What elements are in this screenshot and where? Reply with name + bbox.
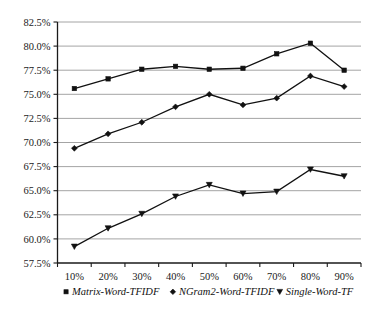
x-axis-label: 30% [132,271,152,282]
y-axis-label: 77.5% [23,65,50,76]
marker-square [72,86,76,90]
chart-legend: Matrix-Word-TFIDFNGram2-Word-TFIDFSingle… [64,286,354,297]
line-chart: 82.5%80.0%77.5%75.0%72.5%70.0%67.5%65.0%… [0,0,372,314]
chart-container: 82.5%80.0%77.5%75.0%72.5%70.0%67.5%65.0%… [0,0,372,314]
y-axis-label: 80.0% [23,41,50,52]
y-axis-label: 60.0% [23,234,50,245]
y-axis-label: 70.0% [23,137,50,148]
marker-square [342,68,346,72]
x-axis-label: 10% [65,271,85,282]
y-axis-label: 75.0% [23,89,50,100]
y-axis-label: 67.5% [23,161,50,172]
y-axis-label: 82.5% [23,17,50,28]
y-axis-label: 72.5% [23,113,50,124]
marker-square [274,52,278,56]
legend-item[interactable]: Matrix-Word-TFIDF [64,286,160,297]
x-axis-label: 60% [233,271,253,282]
x-axis-label: 20% [98,271,118,282]
y-axis-label: 57.5% [23,258,50,269]
marker-square [207,67,211,71]
marker-square [241,66,245,70]
legend-item[interactable]: NGram2-Word-TFIDF [170,286,275,297]
x-axis-label: 70% [267,271,287,282]
y-axis-label: 62.5% [23,209,50,220]
marker-square [308,41,312,45]
marker-square [64,290,68,294]
legend-label: Matrix-Word-TFIDF [71,286,160,297]
x-axis-tick-labels: 10%20%30%40%50%60%70%80%90% [65,271,354,282]
legend-item[interactable]: Single-Word-TF [277,286,354,297]
legend-label: Single-Word-TF [286,286,354,297]
marker-square [173,64,177,68]
x-axis-label: 40% [166,271,186,282]
legend-label: NGram2-Word-TFIDF [178,286,275,297]
y-axis-label: 65.0% [23,185,50,196]
x-axis-label: 90% [335,271,355,282]
marker-square [106,77,110,81]
marker-square [140,67,144,71]
x-axis-label: 50% [200,271,220,282]
x-axis-label: 80% [301,271,321,282]
